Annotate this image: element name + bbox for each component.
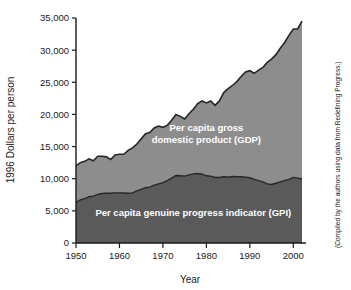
x-tick-label: 1960 xyxy=(109,250,130,261)
source-note: (Compiled by the authors using data from… xyxy=(334,61,342,248)
figure-container: 05,00010,00015,00020,00025,00030,00035,0… xyxy=(0,0,351,290)
x-tick-label: 1980 xyxy=(196,250,217,261)
gdp-band-label: Per capita gross xyxy=(169,122,243,133)
y-tick-label: 10,000 xyxy=(40,173,69,184)
x-axis-title: Year xyxy=(180,274,201,285)
y-tick-label: 15,000 xyxy=(40,141,69,152)
y-tick-label: 25,000 xyxy=(40,77,69,88)
gpi-band-label: Per capita genuine progress indicator (G… xyxy=(95,207,291,218)
gdp-gpi-area-chart: 05,00010,00015,00020,00025,00030,00035,0… xyxy=(0,0,351,290)
y-tick-label: 35,000 xyxy=(40,12,69,23)
y-tick-label: 20,000 xyxy=(40,109,69,120)
x-tick-label: 1990 xyxy=(239,250,260,261)
y-tick-label: 5,000 xyxy=(45,205,69,216)
y-axis-title: 1996 Dollars per person xyxy=(5,77,16,184)
x-tick-label: 1950 xyxy=(65,250,86,261)
x-tick-label: 1970 xyxy=(152,250,173,261)
y-tick-label: 30,000 xyxy=(40,45,69,56)
x-tick-label: 2000 xyxy=(283,250,304,261)
y-tick-label: 0 xyxy=(64,237,69,248)
gdp-band-label: domestic product (GDP) xyxy=(152,134,261,145)
